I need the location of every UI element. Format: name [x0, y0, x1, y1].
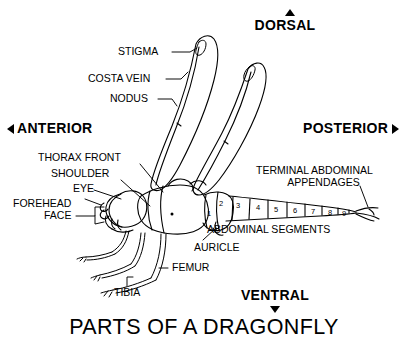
segment-number-8: 8 — [328, 208, 332, 217]
callout-tibia: TIBIA — [114, 287, 140, 298]
hind-wing-shape — [151, 36, 218, 191]
anterior-arrow-icon — [7, 124, 14, 134]
anterior-label: ANTERIOR — [17, 121, 93, 136]
callout-shoulder: SHOULDER — [51, 168, 109, 179]
callout-thorax-front: THORAX FRONT — [38, 152, 121, 163]
callout-forehead: FOREHEAD — [13, 198, 71, 209]
callout-face: FACE — [44, 210, 71, 221]
segment-number-2: 2 — [219, 199, 223, 208]
ventral-label: VENTRAL — [235, 288, 315, 303]
callout-terminal-appendages-line2: APPENDAGES — [256, 177, 391, 188]
callout-stigma: STIGMA — [118, 46, 158, 57]
callout-femur: FEMUR — [172, 262, 209, 273]
callout-nodus: NODUS — [110, 93, 148, 104]
segment-number-4: 4 — [256, 203, 260, 212]
segment-number-6: 6 — [293, 206, 297, 215]
thorax-shape — [138, 179, 209, 234]
ventral-arrow-icon — [270, 306, 280, 313]
callout-costa-vein: COSTA VEIN — [88, 73, 150, 84]
dorsal-label: DORSAL — [245, 18, 325, 33]
callout-auricle: AURICLE — [194, 242, 240, 253]
dorsal-arrow-icon — [285, 9, 295, 16]
dragonfly-diagram: DORSAL VENTRAL ANTERIOR POSTERIOR STIGMA… — [0, 0, 408, 347]
page-title: PARTS OF A DRAGONFLY — [0, 316, 408, 338]
segment-number-1: 1 — [207, 209, 211, 218]
segment-number-7: 7 — [311, 207, 315, 216]
callout-terminal-appendages-line1: TERMINAL ABDOMINAL — [256, 165, 373, 176]
posterior-arrow-icon — [392, 124, 399, 134]
segment-number-9: 9 — [342, 209, 346, 218]
callout-eye: EYE — [73, 183, 94, 194]
posterior-label: POSTERIOR — [303, 121, 388, 136]
segment-number-5: 5 — [274, 205, 278, 214]
callout-abdominal-segments: ABDOMINAL SEGMENTS — [207, 224, 330, 235]
segment-number-3: 3 — [236, 201, 240, 210]
